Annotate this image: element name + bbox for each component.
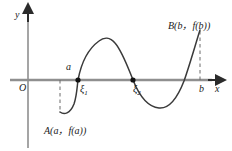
point-a-label: A(a，f(a)): [44, 126, 86, 136]
xi2-point-marker: [130, 77, 135, 82]
tick-label-xi1: ξ1: [80, 84, 88, 97]
function-curve: [60, 30, 200, 113]
tick-label-a: a: [66, 62, 71, 72]
point-b-label: B(b，f(b)): [168, 21, 210, 31]
y-axis-label: y: [15, 10, 19, 20]
tick-label-xi2: ξ2: [133, 84, 141, 97]
tick-label-b: b: [199, 84, 204, 94]
figure-canvas: y x O a b ξ1 ξ2 A(a，f(a)) B(b，f(b)): [0, 0, 232, 151]
xi1-point-marker: [75, 77, 80, 82]
x-axis-label: x: [215, 84, 219, 94]
origin-label: O: [19, 83, 26, 93]
xi1-subscript: 1: [84, 89, 88, 97]
xi2-subscript: 2: [137, 89, 141, 97]
